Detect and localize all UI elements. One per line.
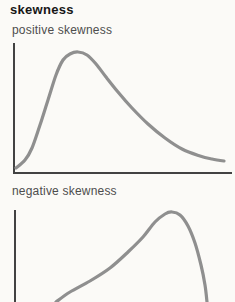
figure-title: skewness xyxy=(10,2,74,17)
positive-skewness-label: positive skewness xyxy=(12,23,112,37)
negative-skewness-chart xyxy=(0,207,235,302)
distribution-curve xyxy=(16,52,224,168)
negative-skewness-label: negative skewness xyxy=(12,184,117,198)
distribution-curve xyxy=(56,212,207,302)
skewness-figure: skewness positive skewness negative skew… xyxy=(0,0,235,302)
positive-skewness-chart xyxy=(0,42,235,177)
